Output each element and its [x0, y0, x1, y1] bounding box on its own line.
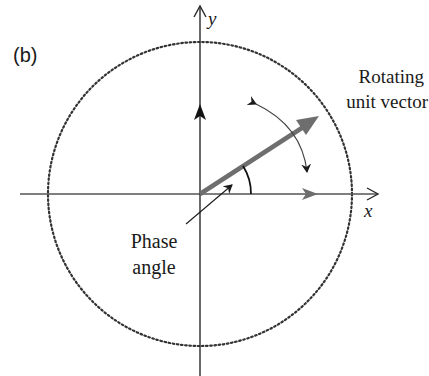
phasor-diagram: [0, 0, 429, 376]
phase-angle-label-line2: angle: [122, 254, 186, 280]
y-axis-label: y: [208, 8, 216, 30]
phase-angle-label-line1: Phase: [122, 228, 186, 254]
panel-label: (b): [13, 44, 37, 67]
rotation-double-arrow: [256, 104, 307, 172]
rotating-vector-label-line2: unit vector: [324, 90, 428, 114]
phase-angle-label: Phase angle: [122, 228, 186, 280]
phase-angle-arc: [243, 166, 251, 194]
x-axis-label: x: [364, 200, 372, 222]
rotating-vector-label: Rotating unit vector: [328, 64, 428, 114]
phase-angle-pointer: [186, 185, 232, 224]
rotating-unit-vector: [200, 124, 308, 194]
rotating-vector-label-line1: Rotating: [328, 64, 428, 90]
